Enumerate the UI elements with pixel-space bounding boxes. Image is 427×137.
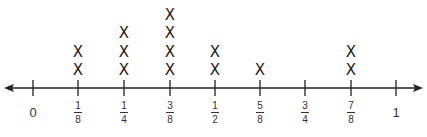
- fraction-bar: [74, 112, 82, 113]
- tick-label: 14: [114, 100, 134, 125]
- denominator: 4: [121, 114, 127, 125]
- x-mark: X: [208, 45, 222, 60]
- tick-label: 12: [205, 100, 225, 125]
- numerator: 1: [212, 100, 218, 111]
- tick-label: 34: [295, 100, 315, 125]
- x-mark: X: [71, 63, 85, 78]
- x-mark: X: [208, 63, 222, 78]
- tick-label: 0: [23, 105, 43, 120]
- x-mark: X: [71, 45, 85, 60]
- numerator: 5: [257, 100, 263, 111]
- denominator: 8: [167, 114, 173, 125]
- x-mark: X: [163, 26, 177, 41]
- fraction-bar: [301, 112, 309, 113]
- denominator: 8: [257, 114, 263, 125]
- x-mark: X: [117, 26, 131, 41]
- denominator: 8: [75, 114, 81, 125]
- denominator: 8: [348, 114, 354, 125]
- numerator: 1: [75, 100, 81, 111]
- denominator: 4: [302, 114, 308, 125]
- fraction-bar: [166, 112, 174, 113]
- x-mark: X: [117, 63, 131, 78]
- fraction-bar: [256, 112, 264, 113]
- x-mark: X: [253, 63, 267, 78]
- tick-label: 1: [386, 105, 406, 120]
- numerator: 7: [348, 100, 354, 111]
- fraction-bar: [347, 112, 355, 113]
- tick-label: 38: [160, 100, 180, 125]
- tick-label: 78: [341, 100, 361, 125]
- numerator: 3: [302, 100, 308, 111]
- x-mark: X: [163, 8, 177, 23]
- x-mark: X: [163, 45, 177, 60]
- fraction-bar: [211, 112, 219, 113]
- numerator: 1: [121, 100, 127, 111]
- denominator: 2: [212, 114, 218, 125]
- x-mark: X: [117, 45, 131, 60]
- x-mark: X: [163, 63, 177, 78]
- x-mark: X: [344, 63, 358, 78]
- numerator: 3: [167, 100, 173, 111]
- tick-label: 18: [68, 100, 88, 125]
- line-plot: 0181438125834781 XXXXXXXXXXXXXX: [0, 0, 427, 137]
- x-mark: X: [344, 45, 358, 60]
- tick-label: 58: [250, 100, 270, 125]
- fraction-bar: [120, 112, 128, 113]
